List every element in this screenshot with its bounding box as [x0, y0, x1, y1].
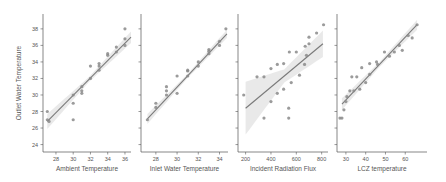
- data-point: [269, 67, 272, 70]
- x-tick-label: 40: [363, 156, 369, 162]
- y-axis-label: Outlet Water Temperature: [15, 45, 23, 120]
- x-tick-label: 30: [70, 156, 76, 162]
- data-point: [322, 23, 325, 26]
- data-point: [393, 50, 396, 53]
- data-point: [344, 100, 347, 103]
- y-tick-label: 32: [32, 75, 38, 81]
- data-point: [123, 27, 126, 30]
- data-point: [358, 88, 361, 91]
- data-point: [348, 89, 351, 92]
- x-tick-label: 30: [343, 156, 349, 162]
- data-point: [106, 54, 109, 57]
- x-tick-label: 50: [382, 156, 388, 162]
- x-tick-label: 800: [317, 156, 326, 162]
- x-tick-label: 200: [241, 156, 250, 162]
- data-point: [350, 75, 353, 78]
- scatter-panel-1: 24262830323436382830323436Ambient Temper…: [15, 14, 131, 173]
- data-point: [186, 69, 189, 72]
- data-point: [303, 63, 306, 66]
- x-tick-label: 400: [266, 156, 275, 162]
- data-point: [307, 36, 310, 39]
- data-point: [295, 50, 298, 53]
- data-point: [115, 50, 118, 53]
- data-point: [175, 74, 178, 77]
- y-tick-label: 26: [32, 125, 38, 131]
- x-tick-label: 34: [216, 156, 222, 162]
- data-point: [46, 110, 49, 113]
- figure: 24262830323436382830323436Ambient Temper…: [0, 0, 446, 182]
- data-point: [255, 75, 258, 78]
- data-point: [47, 120, 50, 123]
- data-point: [115, 45, 118, 48]
- data-point: [262, 75, 265, 78]
- x-tick-label: 32: [87, 156, 93, 162]
- data-point: [154, 102, 157, 105]
- data-point: [383, 50, 386, 53]
- x-axis-label: Ambient Temperature: [56, 165, 118, 173]
- y-tick-label: 36: [32, 42, 38, 48]
- scatter-panel-4: 30405060LCZ temperature: [335, 14, 428, 173]
- data-point: [89, 64, 92, 67]
- data-point: [401, 49, 404, 52]
- data-point: [305, 54, 308, 57]
- data-point: [262, 117, 265, 120]
- y-tick-label: 34: [32, 59, 38, 65]
- y-tick-label: 24: [32, 142, 38, 148]
- data-point: [72, 93, 75, 96]
- data-point: [298, 74, 301, 77]
- data-point: [97, 69, 100, 72]
- data-point: [218, 44, 221, 47]
- data-point: [368, 73, 371, 76]
- data-point: [80, 85, 83, 88]
- y-tick-label: 30: [32, 92, 38, 98]
- data-point: [175, 92, 178, 95]
- x-axis-label: Inlet Water Temperature: [150, 165, 220, 173]
- data-point: [146, 118, 149, 121]
- data-point: [355, 75, 358, 78]
- data-point: [407, 34, 410, 37]
- y-tick-label: 38: [32, 26, 38, 32]
- data-point: [72, 102, 75, 105]
- data-point: [340, 117, 343, 120]
- data-point: [218, 40, 221, 43]
- data-point: [304, 45, 307, 48]
- scatter-panel-2: 28303234Inlet Water Temperature: [139, 14, 229, 173]
- x-tick-label: 28: [153, 156, 159, 162]
- data-point: [72, 118, 75, 121]
- confidence-band: [246, 31, 323, 135]
- y-tick-label: 28: [32, 109, 38, 115]
- data-point: [89, 77, 92, 80]
- data-point: [411, 36, 414, 39]
- data-point: [154, 106, 157, 109]
- data-point: [197, 64, 200, 67]
- data-point: [388, 55, 391, 58]
- data-point: [207, 48, 210, 51]
- data-point: [165, 85, 168, 88]
- scatter-panel-3: 200400600800Incident Radiation Flux: [236, 14, 329, 172]
- data-point: [360, 66, 363, 69]
- data-point: [197, 60, 200, 63]
- data-point: [80, 89, 83, 92]
- data-point: [282, 88, 285, 91]
- data-point: [282, 62, 285, 65]
- data-point: [315, 31, 318, 34]
- x-axis-label: Incident Radiation Flux: [250, 165, 317, 172]
- data-point: [224, 27, 227, 30]
- data-point: [364, 81, 367, 84]
- x-tick-label: 32: [195, 156, 201, 162]
- x-axis-label: LCZ temperature: [357, 165, 407, 173]
- data-point: [186, 74, 189, 77]
- data-point: [416, 23, 419, 26]
- x-tick-label: 30: [174, 156, 180, 162]
- data-point: [307, 42, 310, 45]
- confidence-band: [47, 31, 131, 128]
- data-point: [376, 63, 379, 66]
- data-point: [352, 89, 355, 92]
- data-point: [276, 92, 279, 95]
- data-point: [123, 37, 126, 40]
- data-point: [287, 117, 290, 120]
- data-point: [287, 107, 290, 110]
- data-point: [165, 93, 168, 96]
- x-tick-label: 600: [292, 156, 301, 162]
- data-point: [398, 44, 401, 47]
